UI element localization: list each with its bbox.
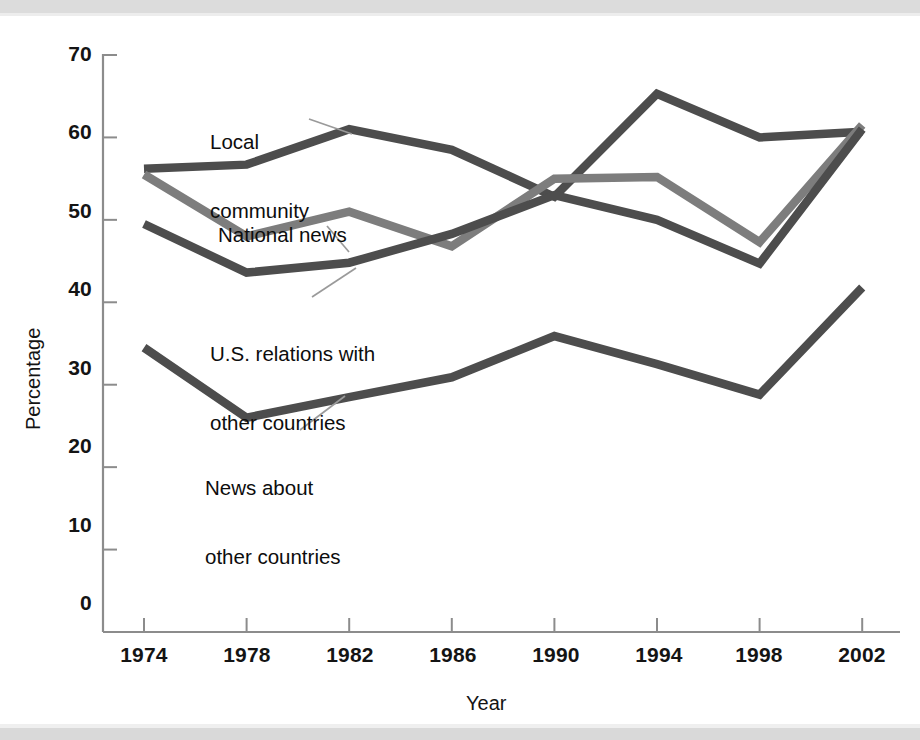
series-label-local-community-line1: Local	[210, 131, 309, 154]
line-chart-plot	[0, 0, 920, 740]
series-label-news-other-countries: News about other countries	[205, 431, 341, 615]
xtick-label-2002: 2002	[817, 643, 907, 667]
xtick-label-1986: 1986	[408, 643, 498, 667]
ytick-label-40: 40	[32, 277, 92, 301]
ytick-label-10: 10	[32, 513, 92, 537]
xtick-label-1998: 1998	[714, 643, 804, 667]
series-label-national-news-line1: National news	[218, 224, 347, 247]
series-label-news-other-countries-line2: other countries	[205, 546, 341, 569]
xtick-label-1974: 1974	[99, 643, 189, 667]
ytick-label-20: 20	[32, 434, 92, 458]
xtick-label-1978: 1978	[202, 643, 292, 667]
chart-figure: 70 60 50 40 30 20 10 0 1974 1978 1982 19…	[0, 0, 920, 740]
xtick-label-1982: 1982	[305, 643, 395, 667]
ytick-label-60: 60	[32, 120, 92, 144]
series-label-us-relations-line1: U.S. relations with	[210, 343, 375, 366]
xtick-label-1994: 1994	[614, 643, 704, 667]
ytick-label-70: 70	[32, 42, 92, 66]
series-label-national-news: National news	[218, 178, 347, 293]
series-label-news-other-countries-line1: News about	[205, 477, 341, 500]
ytick-label-0: 0	[32, 591, 92, 615]
y-axis-title: Percentage	[22, 328, 45, 430]
xtick-label-1990: 1990	[511, 643, 601, 667]
y-axis-ticks	[103, 55, 117, 632]
ytick-label-50: 50	[32, 199, 92, 223]
x-axis-title: Year	[466, 692, 506, 715]
x-axis-ticks	[144, 618, 862, 632]
